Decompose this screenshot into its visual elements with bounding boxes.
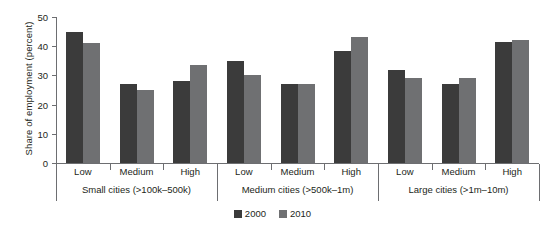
category-separator bbox=[324, 164, 325, 170]
y-axis-tick-label: 10 bbox=[22, 130, 48, 140]
category-label-low: Low bbox=[378, 166, 432, 177]
category-separator bbox=[432, 164, 433, 170]
y-axis-tick bbox=[52, 134, 56, 135]
y-axis-title: Share of employment (percent) bbox=[23, 9, 34, 169]
group-label: Large cities (>1m–10m) bbox=[378, 184, 539, 195]
bar-2000-high bbox=[334, 51, 351, 163]
bar-2000-high bbox=[173, 81, 190, 163]
legend-swatch-2010 bbox=[279, 210, 287, 218]
bar-2000-low bbox=[227, 61, 244, 163]
category-label-medium: Medium bbox=[432, 166, 486, 177]
y-axis-tick bbox=[52, 46, 56, 47]
legend-label-2000: 2000 bbox=[245, 208, 266, 219]
bar-2010-medium bbox=[298, 84, 315, 163]
legend-swatch-2000 bbox=[234, 210, 242, 218]
legend-label-2010: 2010 bbox=[290, 208, 311, 219]
group-separator bbox=[539, 164, 540, 201]
y-axis-tick-label: 50 bbox=[22, 13, 48, 23]
y-axis-line bbox=[56, 17, 57, 163]
bar-2010-low bbox=[83, 43, 100, 163]
group-separator bbox=[56, 164, 57, 201]
y-axis-tick-label: 0 bbox=[22, 159, 48, 169]
bar-2010-low bbox=[405, 78, 422, 163]
chart-legend: 20002010 bbox=[0, 208, 545, 219]
group-label: Small cities (>100k–500k) bbox=[56, 184, 217, 195]
category-label-high: High bbox=[485, 166, 539, 177]
group-axis: Small cities (>100k–500k)Medium cities (… bbox=[56, 181, 539, 201]
group-separator bbox=[378, 164, 379, 201]
category-label-medium: Medium bbox=[271, 166, 325, 177]
bar-2000-medium bbox=[281, 84, 298, 163]
bar-2000-low bbox=[388, 70, 405, 163]
category-separator bbox=[163, 164, 164, 170]
category-separator bbox=[271, 164, 272, 170]
bar-2010-medium bbox=[137, 90, 154, 163]
bar-2010-high bbox=[512, 40, 529, 163]
y-axis-tick-label: 40 bbox=[22, 42, 48, 52]
bar-2000-high bbox=[495, 42, 512, 163]
group-separator bbox=[217, 164, 218, 201]
y-axis-tick-label: 30 bbox=[22, 71, 48, 81]
category-label-high: High bbox=[163, 166, 217, 177]
category-label-high: High bbox=[324, 166, 378, 177]
y-axis-tick bbox=[52, 75, 56, 76]
legend-item-2000: 2000 bbox=[234, 208, 266, 219]
bar-2000-low bbox=[66, 32, 83, 163]
legend-item-2010: 2010 bbox=[279, 208, 311, 219]
plot-area: 01020304050 bbox=[56, 17, 539, 163]
y-axis-tick bbox=[52, 17, 56, 18]
bar-2010-low bbox=[244, 75, 261, 163]
grouped-bar-chart: Share of employment (percent) 0102030405… bbox=[0, 0, 545, 229]
bar-2000-medium bbox=[120, 84, 137, 163]
category-axis: LowMediumHighLowMediumHighLowMediumHigh bbox=[56, 164, 539, 181]
bar-2010-high bbox=[190, 65, 207, 163]
y-axis-tick-label: 20 bbox=[22, 101, 48, 111]
category-label-low: Low bbox=[217, 166, 271, 177]
category-label-low: Low bbox=[56, 166, 110, 177]
bar-2000-medium bbox=[442, 84, 459, 163]
bar-2010-high bbox=[351, 37, 368, 163]
bar-2010-medium bbox=[459, 78, 476, 163]
group-label: Medium cities (>500k–1m) bbox=[217, 184, 378, 195]
category-separator bbox=[485, 164, 486, 170]
category-label-medium: Medium bbox=[110, 166, 164, 177]
y-axis-tick bbox=[52, 105, 56, 106]
category-separator bbox=[110, 164, 111, 170]
